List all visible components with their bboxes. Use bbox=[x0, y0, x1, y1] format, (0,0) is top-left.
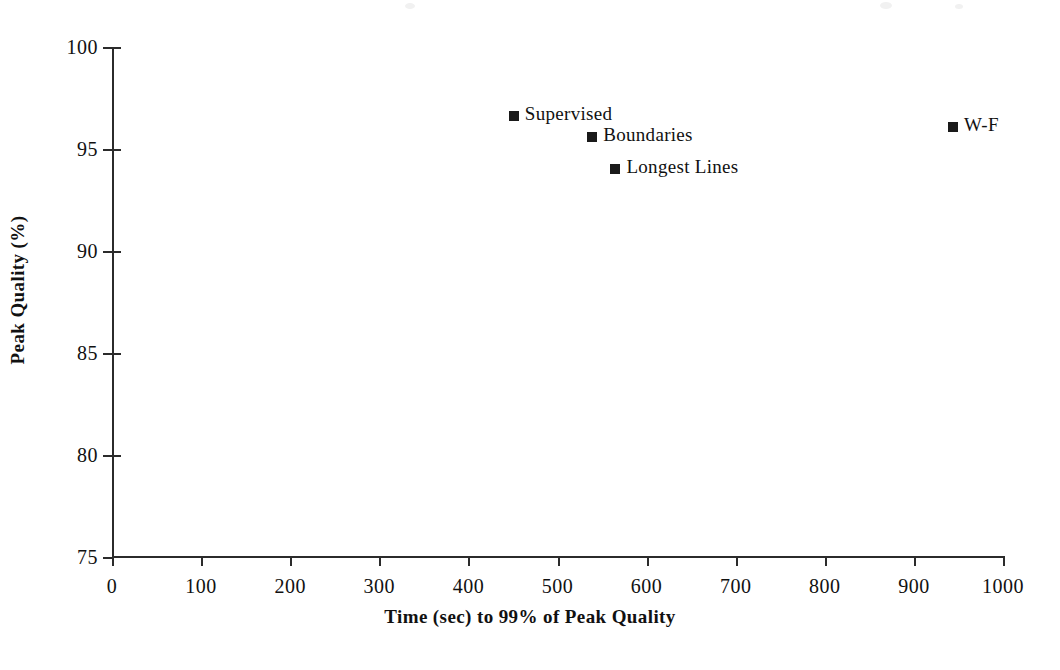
x-axis-tick bbox=[736, 556, 738, 566]
data-point-marker bbox=[587, 132, 597, 142]
x-axis-tick bbox=[290, 556, 292, 566]
y-axis-tick-inner bbox=[112, 251, 121, 253]
x-axis-tick-label: 100 bbox=[185, 575, 217, 598]
y-axis-tick-inner bbox=[112, 47, 121, 49]
x-axis-tick-label: 1000 bbox=[982, 575, 1024, 598]
x-axis-tick bbox=[914, 556, 916, 566]
x-axis-tick-label: 0 bbox=[107, 575, 118, 598]
data-point-label: W-F bbox=[964, 114, 999, 136]
x-axis-tick bbox=[201, 556, 203, 566]
y-axis-tick-label: 80 bbox=[77, 444, 98, 467]
data-point-marker bbox=[610, 164, 620, 174]
y-axis-tick-inner bbox=[112, 455, 121, 457]
data-point-marker bbox=[509, 111, 519, 121]
y-axis-tick-inner bbox=[112, 149, 121, 151]
x-axis-tick bbox=[112, 556, 114, 566]
x-axis-tick-label: 400 bbox=[453, 575, 485, 598]
y-axis-tick-label: 95 bbox=[77, 138, 98, 161]
x-axis-tick bbox=[379, 556, 381, 566]
x-axis-tick bbox=[558, 556, 560, 566]
scatter-plot-figure: 7580859095100010020030040050060070080090… bbox=[0, 0, 1060, 670]
y-axis-title: Peak Quality (%) bbox=[7, 150, 29, 430]
x-axis-tick-label: 800 bbox=[809, 575, 841, 598]
x-axis-tick-label: 200 bbox=[274, 575, 306, 598]
y-axis-tick-label: 90 bbox=[77, 240, 98, 263]
scan-speckle bbox=[955, 4, 963, 9]
x-axis-tick-label: 500 bbox=[542, 575, 574, 598]
data-point-marker bbox=[948, 122, 958, 132]
x-axis-tick bbox=[647, 556, 649, 566]
x-axis-tick-label: 700 bbox=[720, 575, 752, 598]
y-axis-tick-label: 100 bbox=[67, 36, 99, 59]
scan-speckle bbox=[880, 2, 892, 9]
y-axis-tick-inner bbox=[112, 353, 121, 355]
x-axis-tick bbox=[468, 556, 470, 566]
x-axis-tick-label: 600 bbox=[631, 575, 663, 598]
scan-speckle bbox=[405, 3, 415, 9]
x-axis-tick-label: 900 bbox=[898, 575, 930, 598]
data-point-label: Longest Lines bbox=[626, 156, 738, 178]
x-axis-title: Time (sec) to 99% of Peak Quality bbox=[0, 606, 1060, 628]
y-axis-tick-label: 75 bbox=[77, 546, 98, 569]
plot-area: 7580859095100010020030040050060070080090… bbox=[112, 47, 1003, 557]
data-point-label: Boundaries bbox=[603, 124, 693, 146]
y-axis-tick-label: 85 bbox=[77, 342, 98, 365]
x-axis-tick bbox=[825, 556, 827, 566]
data-point-label: Supervised bbox=[525, 103, 612, 125]
x-axis-tick bbox=[1003, 556, 1005, 566]
x-axis-tick-label: 300 bbox=[364, 575, 396, 598]
